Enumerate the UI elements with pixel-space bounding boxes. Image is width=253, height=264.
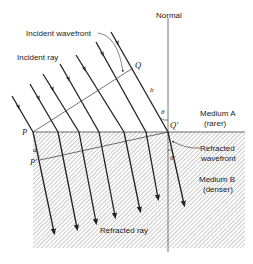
medium-a-desc: (rarer) <box>204 119 227 128</box>
medium-a-name: Medium A <box>200 109 236 118</box>
angle-theta-label: θ <box>161 108 165 116</box>
segment-a-label: a <box>33 146 37 154</box>
point-p-label: P <box>21 127 27 137</box>
point-q-prime-label: Q' <box>170 120 178 130</box>
refraction-diagram: Normal Incident wavefront Incident ray M… <box>0 0 253 264</box>
angle-theta-prime-label: θ' <box>170 154 175 162</box>
point-q-label: Q <box>135 60 141 70</box>
diagram-canvas: Normal Incident wavefront Incident ray M… <box>0 0 253 264</box>
segment-b-label: b <box>150 86 154 94</box>
incident-ray-label: Incident ray <box>17 53 58 62</box>
incident-wavefront-label: Incident wavefront <box>26 29 92 38</box>
point-p-prime-label: P' <box>29 157 37 167</box>
normal-label: Normal <box>156 11 182 20</box>
medium-b-label: Medium B <box>199 175 235 184</box>
refracted-wavefront-label-1: Refracted <box>200 144 235 153</box>
medium-b-desc: (denser) <box>203 185 233 194</box>
refracted-wavefront-label-2: wavefront <box>200 154 236 163</box>
medium-a-label: Medium A <box>200 109 236 118</box>
refracted-ray-label: Refracted ray <box>100 226 148 235</box>
